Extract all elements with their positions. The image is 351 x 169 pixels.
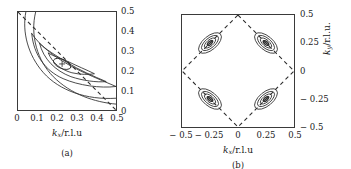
panel-a-ytick-5: 0 [121, 107, 126, 116]
panel-a-ytick-3: 0.2 [121, 67, 135, 76]
panel-b-ytick-4: − 0.5 [300, 123, 323, 132]
panel-b-ytick-2: 0 [300, 67, 305, 76]
afm-zone-boundary-diamond [182, 15, 294, 127]
panel-a-xtick-4: 0.4 [90, 114, 104, 123]
panel-a-contours [18, 12, 116, 110]
panel-a-xtick-3: 0.3 [70, 114, 84, 123]
panel-b-xaxis-title: kx/r.l.u [223, 145, 253, 156]
contour-path-4 [40, 43, 107, 81]
contour-path-5 [48, 53, 94, 74]
panel-a-xaxis-title: kx/r.l.u [52, 128, 82, 139]
panel-b-yaxis-symbol: k [322, 50, 332, 55]
panel-b-xtick-2: 0 [235, 131, 240, 140]
panel-b-yaxis-unit: /r.l.u. [322, 22, 332, 46]
panel-b-caption: (b) [232, 160, 244, 169]
panel-b-contours [182, 15, 294, 127]
panel-b-plot-frame [181, 14, 295, 128]
panel-a-ytick-2: 0.3 [121, 47, 135, 56]
panel-b-ytick-1: 0.25 [300, 38, 319, 47]
panel-a-xtick-2: 0.2 [50, 114, 64, 123]
panel-b-xtick-1: − 0.25 [195, 131, 224, 140]
panel-a-caption: (a) [61, 148, 73, 158]
panel-b-xaxis-unit: /r.l.u [232, 145, 253, 155]
panel-b-xtick-0: − 0.5 [169, 131, 192, 140]
contour-path-outer [25, 12, 116, 98]
panel-a-xtick-1: 0.1 [30, 114, 44, 123]
panel-a: 0 0.1 0.2 0.3 0.4 0.5 0.5 0.4 0.3 0.2 0.… [0, 0, 176, 169]
panel-b-ytick-3: − 0.25 [300, 95, 329, 104]
panel-a-xtick-0: 0 [14, 114, 19, 123]
panel-a-plot-frame [17, 11, 117, 111]
panel-b-yaxis-title: ky/r.l.u. [322, 22, 333, 55]
contour-path-3 [32, 34, 116, 88]
panel-a-xaxis-unit: /r.l.u [61, 128, 82, 138]
panel-b-yaxis-subscript: y [325, 46, 333, 50]
panel-b-xtick-4: 0.5 [288, 131, 302, 140]
panel-b-ytick-0: 0.5 [300, 10, 314, 19]
figure-container: 0 0.1 0.2 0.3 0.4 0.5 0.5 0.4 0.3 0.2 0.… [0, 0, 351, 169]
panel-a-ytick-4: 0.1 [121, 87, 135, 96]
panel-b-xtick-3: 0.25 [257, 131, 276, 140]
panel-a-ytick-1: 0.4 [121, 27, 135, 36]
panel-a-ytick-0: 0.5 [121, 7, 135, 16]
